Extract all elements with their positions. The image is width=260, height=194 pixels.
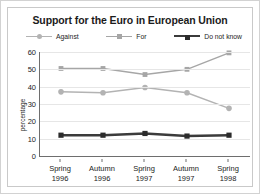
x-tick-label: Autumn1996: [89, 164, 115, 183]
legend-line-for: [106, 36, 132, 37]
x-tick-season: Spring: [133, 164, 155, 173]
gridline: [40, 52, 250, 53]
legend-line-against: [26, 36, 52, 37]
legend-label-for: For: [136, 33, 146, 40]
legend-label-do-not-know: Do not know: [204, 33, 242, 40]
gridline: [40, 139, 250, 140]
data-point-square-icon: [142, 131, 147, 136]
gridline: [40, 104, 250, 105]
legend-item-do-not-know[interactable]: Do not know: [174, 33, 242, 40]
series-do-not-know: [58, 131, 231, 139]
series-for: [59, 50, 232, 76]
x-axis-ticks: Spring1996Autumn1996Spring1997Autumn1997…: [39, 159, 249, 185]
x-tick-label: Spring1996: [49, 164, 71, 183]
x-tick-label: Spring1998: [217, 164, 239, 183]
data-point-circle-icon: [100, 90, 106, 96]
image-frame: Support for the Euro in European Union A…: [0, 0, 260, 194]
y-tick-label: 20: [28, 117, 36, 126]
data-point-circle-icon: [58, 89, 64, 95]
x-tick-mark: [144, 159, 145, 162]
legend-line-do-not-know: [174, 35, 200, 37]
series-against: [58, 85, 232, 111]
x-tick-mark: [60, 159, 61, 162]
x-tick-mark: [102, 159, 103, 162]
y-tick-label: 50: [28, 65, 36, 74]
y-axis-ticks: 0102030405060: [20, 52, 36, 156]
gridline: [40, 69, 250, 70]
y-tick-label: 30: [28, 100, 36, 109]
x-tick-label: Spring1997: [133, 164, 155, 183]
data-point-square-icon: [58, 133, 63, 138]
x-tick-season: Spring: [49, 164, 71, 173]
y-tick-label: 10: [28, 134, 36, 143]
series-line: [61, 53, 229, 75]
legend-marker-circle-icon: [37, 34, 42, 39]
legend-marker-square-dark-icon: [185, 35, 190, 40]
chart-legend: Against For Do not know: [16, 30, 246, 42]
plot-area-wrapper: percentage 0102030405060 Spring1996Autum…: [8, 44, 252, 186]
x-tick-season: Spring: [217, 164, 239, 173]
data-point-square-icon: [143, 72, 148, 77]
x-tick-mark: [228, 159, 229, 162]
y-tick-label: 60: [28, 48, 36, 57]
legend-marker-square-icon: [117, 34, 122, 39]
x-tick-label: Autumn1997: [173, 164, 199, 183]
x-tick-year: 1996: [49, 174, 71, 184]
y-tick-label: 40: [28, 82, 36, 91]
series-line: [61, 88, 229, 109]
y-tick-label: 0: [32, 152, 36, 161]
data-point-square-icon: [100, 133, 105, 138]
data-point-square-icon: [226, 133, 231, 138]
legend-item-against[interactable]: Against: [26, 33, 79, 40]
x-tick-year: 1996: [89, 174, 115, 184]
plot-area: [39, 52, 250, 157]
data-point-circle-icon: [184, 90, 190, 96]
chart-title: Support for the Euro in European Union: [8, 14, 252, 26]
x-tick-year: 1997: [173, 174, 199, 184]
data-point-circle-icon: [226, 106, 232, 112]
x-tick-season: Autumn: [89, 164, 115, 173]
legend-item-for[interactable]: For: [106, 33, 146, 40]
gridline: [40, 121, 250, 122]
x-tick-year: 1998: [217, 174, 239, 184]
gridline: [40, 87, 250, 88]
chart-card: Support for the Euro in European Union A…: [7, 7, 253, 187]
x-tick-year: 1997: [133, 174, 155, 184]
x-tick-season: Autumn: [173, 164, 199, 173]
legend-label-against: Against: [56, 33, 79, 40]
x-tick-mark: [186, 159, 187, 162]
